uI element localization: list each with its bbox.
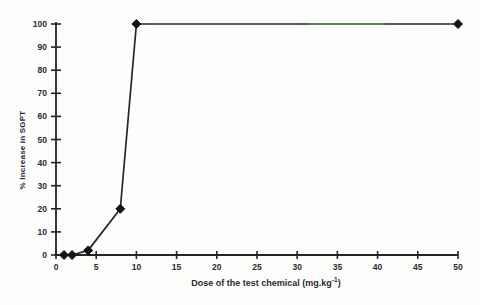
series-line: [64, 24, 458, 255]
y-axis-title: % Increase in SGPT: [18, 100, 30, 200]
y-tick-label: 40: [38, 158, 48, 168]
x-tick-label: 50: [453, 262, 463, 272]
x-tick-label: 5: [94, 262, 99, 272]
y-tick-label: 100: [33, 19, 47, 29]
data-point-marker: [132, 20, 141, 29]
y-tick-label: 60: [38, 111, 48, 121]
y-tick-label: 0: [42, 250, 47, 260]
data-point-marker: [454, 20, 463, 29]
x-tick-label: 10: [132, 262, 142, 272]
y-tick-label: 90: [38, 42, 48, 52]
x-tick-label: 20: [212, 262, 222, 272]
chart-figure: 0510152025303540455001020304050607080901…: [0, 0, 480, 305]
y-tick-label: 80: [38, 65, 48, 75]
y-tick-label: 30: [38, 181, 48, 191]
x-axis-title-close: ): [338, 278, 341, 288]
y-tick-label: 20: [38, 204, 48, 214]
x-tick-label: 0: [54, 262, 59, 272]
data-point-marker: [68, 251, 77, 260]
x-axis-title: Dose of the test chemical (mg.kg-1): [116, 276, 416, 288]
y-tick-label: 70: [38, 88, 48, 98]
y-tick-label: 10: [38, 227, 48, 237]
x-tick-label: 35: [333, 262, 343, 272]
x-tick-label: 25: [252, 262, 262, 272]
x-axis-title-text: Dose of the test chemical (mg.kg: [191, 278, 332, 288]
chart-canvas: 0510152025303540455001020304050607080901…: [0, 0, 480, 305]
x-tick-label: 40: [373, 262, 383, 272]
y-tick-label: 50: [38, 135, 48, 145]
x-tick-label: 45: [413, 262, 423, 272]
x-tick-label: 15: [172, 262, 182, 272]
x-tick-label: 30: [292, 262, 302, 272]
